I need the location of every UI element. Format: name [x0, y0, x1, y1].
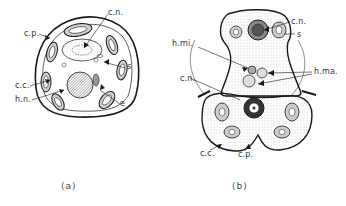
label-a-s: s	[127, 63, 131, 71]
caption-a: (a)	[61, 182, 77, 191]
label-a-cc: c.c.	[15, 82, 30, 90]
label-b-hmi: h.mi.	[172, 40, 193, 48]
label-b-cn-top: c.n.	[291, 18, 306, 26]
caption-b: (b)	[232, 182, 248, 191]
label-a-hn: h.n.	[15, 96, 31, 104]
label-b-cn-left: c.n.	[180, 75, 195, 83]
label-b-cc: c.c.	[200, 150, 215, 158]
label-b-s: s	[297, 31, 301, 39]
label-a-e: e	[120, 100, 125, 108]
label-a-cp: c.p.	[24, 30, 39, 38]
figure-drawing	[0, 0, 346, 206]
label-b-cp: c.p.	[238, 151, 253, 159]
label-b-hma: h.ma.	[314, 68, 338, 76]
label-a-cn: c.n.	[108, 9, 123, 17]
